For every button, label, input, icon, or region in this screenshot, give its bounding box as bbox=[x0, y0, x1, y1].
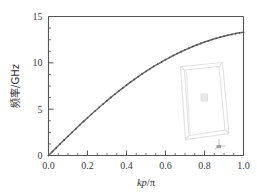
data-point bbox=[98, 106, 100, 108]
data-point bbox=[79, 124, 81, 126]
data-point bbox=[208, 40, 210, 42]
data-point bbox=[204, 41, 206, 43]
data-point bbox=[243, 31, 245, 33]
x-tick-label-2: 0.4 bbox=[120, 160, 133, 171]
data-point bbox=[133, 79, 135, 81]
data-point bbox=[165, 59, 167, 61]
data-point bbox=[55, 147, 57, 149]
data-point bbox=[110, 97, 112, 99]
data-point bbox=[235, 33, 237, 35]
data-point bbox=[130, 81, 132, 83]
data-point bbox=[126, 84, 128, 86]
data-point bbox=[63, 139, 65, 141]
data-point bbox=[102, 103, 104, 105]
data-point bbox=[114, 93, 116, 95]
x-tick-label-0: 0.0 bbox=[42, 160, 55, 171]
data-point bbox=[169, 57, 171, 59]
data-point bbox=[153, 66, 155, 68]
data-point bbox=[231, 34, 233, 36]
data-point bbox=[48, 155, 50, 157]
y-tick-label-1: 5 bbox=[38, 104, 43, 115]
x-tick-label-5: 1.0 bbox=[237, 160, 250, 171]
data-point bbox=[219, 36, 221, 38]
data-point bbox=[67, 135, 69, 137]
triad-origin-marker bbox=[217, 145, 222, 148]
data-point bbox=[87, 117, 89, 119]
data-point bbox=[83, 121, 85, 123]
inset-center-element bbox=[201, 94, 208, 101]
data-point bbox=[180, 51, 182, 53]
data-point bbox=[118, 90, 120, 92]
data-point bbox=[157, 63, 159, 65]
data-point bbox=[200, 43, 202, 45]
dispersion-chart-figure: 0.00.20.40.60.81.0 051015 kp/π 频率/GHz bbox=[0, 0, 257, 193]
chart-canvas: 0.00.20.40.60.81.0 051015 kp/π 频率/GHz bbox=[0, 0, 257, 193]
x-axis-title: kp/π bbox=[137, 177, 156, 188]
data-point bbox=[75, 128, 77, 130]
data-point bbox=[161, 61, 163, 63]
data-point bbox=[91, 113, 93, 115]
data-point bbox=[223, 35, 225, 37]
data-point bbox=[141, 73, 143, 75]
data-point bbox=[192, 46, 194, 48]
data-point bbox=[94, 110, 96, 112]
data-point bbox=[59, 143, 61, 145]
data-point bbox=[215, 37, 217, 39]
data-point bbox=[71, 132, 73, 134]
data-point bbox=[227, 34, 229, 36]
data-point bbox=[52, 151, 54, 153]
x-tick-label-3: 0.6 bbox=[159, 160, 172, 171]
x-tick-label-4: 0.8 bbox=[198, 160, 211, 171]
data-point bbox=[149, 68, 151, 70]
data-point bbox=[188, 47, 190, 49]
y-tick-label-3: 15 bbox=[33, 11, 43, 22]
data-point bbox=[176, 53, 178, 55]
y-tick-label-0: 0 bbox=[38, 150, 43, 161]
data-point bbox=[122, 87, 124, 89]
x-tick-label-1: 0.2 bbox=[81, 160, 94, 171]
data-point bbox=[106, 100, 108, 102]
data-point bbox=[196, 44, 198, 46]
data-point bbox=[211, 39, 213, 41]
data-point bbox=[239, 32, 241, 34]
y-axis-title: 频率/GHz bbox=[9, 64, 21, 108]
data-point bbox=[137, 76, 139, 78]
data-point bbox=[145, 71, 147, 73]
data-point bbox=[172, 55, 174, 57]
y-tick-label-2: 10 bbox=[33, 57, 43, 68]
data-point bbox=[184, 49, 186, 51]
